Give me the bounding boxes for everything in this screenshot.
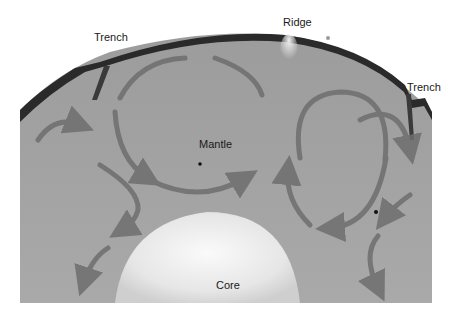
right-dot [374, 210, 378, 214]
label-mantle: Mantle [199, 139, 232, 150]
ridge-upwelling [280, 34, 298, 66]
ridge-dot [326, 36, 330, 40]
label-ridge: Ridge [283, 17, 312, 28]
mantle-dot [198, 162, 202, 166]
label-trench-left: Trench [94, 32, 128, 43]
label-trench-right: Trench [407, 82, 441, 93]
label-core: Core [216, 280, 240, 291]
mantle-convection-diagram [0, 0, 452, 322]
